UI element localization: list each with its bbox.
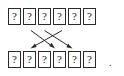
trailing-punctuation: . [109, 51, 112, 69]
unknown-glyph: ? [12, 54, 17, 65]
unknown-glyph: ? [87, 11, 92, 22]
bottom-row: ? ? ? ? ? ? [8, 51, 98, 68]
unknown-glyph: ? [27, 11, 32, 22]
unknown-glyph: ? [57, 54, 62, 65]
figure-canvas: ? ? ? ? ? ? ? ? ? ? ? ? . [0, 0, 124, 76]
unknown-glyph: ? [72, 54, 77, 65]
bottom-cell-1[interactable]: ? [8, 51, 21, 68]
bottom-cell-4[interactable]: ? [53, 51, 66, 68]
bottom-cell-5[interactable]: ? [68, 51, 81, 68]
top-cell-4[interactable]: ? [53, 8, 66, 25]
arrow-c [45, 31, 73, 49]
bottom-cell-2[interactable]: ? [23, 51, 36, 68]
top-cell-2[interactable]: ? [23, 8, 36, 25]
unknown-glyph: ? [57, 11, 62, 22]
unknown-glyph: ? [42, 11, 47, 22]
bottom-cell-6[interactable]: ? [83, 51, 96, 68]
arrow-a [31, 31, 55, 49]
top-cell-3[interactable]: ? [38, 8, 51, 25]
bottom-cell-3[interactable]: ? [38, 51, 51, 68]
top-row: ? ? ? ? ? ? [8, 8, 98, 25]
unknown-glyph: ? [72, 11, 77, 22]
unknown-glyph: ? [42, 54, 47, 65]
top-cell-5[interactable]: ? [68, 8, 81, 25]
top-cell-6[interactable]: ? [83, 8, 96, 25]
unknown-glyph: ? [87, 54, 92, 65]
unknown-glyph: ? [12, 11, 17, 22]
arrow-b [31, 31, 63, 49]
unknown-glyph: ? [27, 54, 32, 65]
top-cell-1[interactable]: ? [8, 8, 21, 25]
